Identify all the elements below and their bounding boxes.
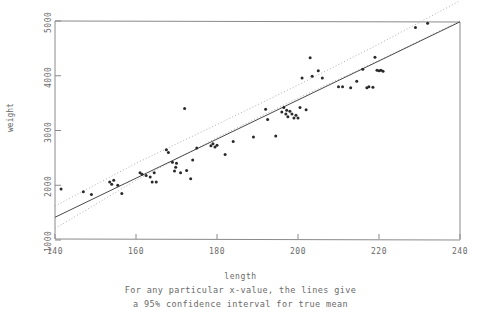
data-point (82, 190, 85, 193)
data-point (301, 76, 304, 79)
data-point (191, 159, 194, 162)
data-point (183, 107, 186, 110)
confidence-band-lower (55, 21, 460, 229)
data-point (288, 110, 291, 113)
data-point (185, 169, 188, 172)
data-point (361, 68, 364, 71)
data-point (116, 184, 119, 187)
chart-container: weight length For any particular x-value… (0, 0, 481, 319)
data-point (149, 176, 152, 179)
data-point (175, 162, 178, 165)
data-point (90, 193, 93, 196)
data-point (321, 76, 324, 79)
confidence-band-upper (55, 1, 460, 206)
data-point (280, 110, 283, 113)
data-point (305, 108, 308, 111)
y-tick-label: 5000 (44, 12, 53, 33)
data-point (110, 183, 113, 186)
x-tick-label: 180 (207, 247, 227, 256)
data-point (426, 22, 429, 25)
data-point (367, 85, 370, 88)
data-point (153, 171, 156, 174)
data-point (337, 85, 340, 88)
caption-line-2: a 95% confidence interval for true mean (0, 299, 481, 309)
data-point (282, 106, 285, 109)
data-point (252, 136, 255, 139)
data-point (179, 171, 182, 174)
x-tick-label: 240 (450, 247, 470, 256)
data-point (216, 144, 219, 147)
data-point (60, 188, 63, 191)
data-point (174, 166, 177, 169)
data-point (284, 113, 287, 116)
x-tick-label: 160 (126, 247, 146, 256)
data-point (120, 192, 123, 195)
data-point (266, 118, 269, 121)
data-point (145, 174, 148, 177)
regression-line (55, 22, 460, 217)
x-axis-title: length (0, 272, 481, 281)
data-point (285, 109, 288, 112)
data-point-group (60, 22, 430, 196)
data-point (264, 108, 267, 111)
data-point (371, 86, 374, 89)
caption-line-1: For any particular x-value, the lines gi… (0, 285, 481, 295)
data-point (414, 26, 417, 29)
data-point (299, 106, 302, 109)
data-point (286, 115, 289, 118)
data-point (211, 142, 214, 145)
data-point (167, 151, 170, 154)
data-point (232, 140, 235, 143)
data-point (112, 179, 115, 182)
data-point (224, 153, 227, 156)
data-point (317, 69, 320, 72)
data-point (382, 70, 385, 73)
data-point (195, 147, 198, 150)
data-point (349, 86, 352, 89)
x-tick-label: 220 (369, 247, 389, 256)
data-point (341, 85, 344, 88)
y-tick-label: 2000 (44, 176, 53, 197)
data-point (297, 116, 300, 119)
data-point (294, 114, 297, 117)
data-point (311, 75, 314, 78)
data-point (165, 148, 168, 151)
data-point (141, 173, 144, 176)
data-point (309, 56, 312, 59)
data-point (173, 170, 176, 173)
data-point (373, 56, 376, 59)
plot-frame (55, 21, 460, 240)
data-point (355, 80, 358, 83)
data-point (151, 180, 154, 183)
data-point (155, 180, 158, 183)
data-point (274, 134, 277, 137)
y-tick-label: 3000 (44, 121, 53, 142)
data-point (189, 177, 192, 180)
data-point (292, 116, 295, 119)
x-tick-label: 200 (288, 247, 308, 256)
y-axis-title: weight (6, 103, 15, 132)
y-tick-label: 4000 (44, 66, 53, 87)
data-point (290, 113, 293, 116)
y-tick-label: 1000 (44, 231, 53, 252)
data-point (171, 161, 174, 164)
